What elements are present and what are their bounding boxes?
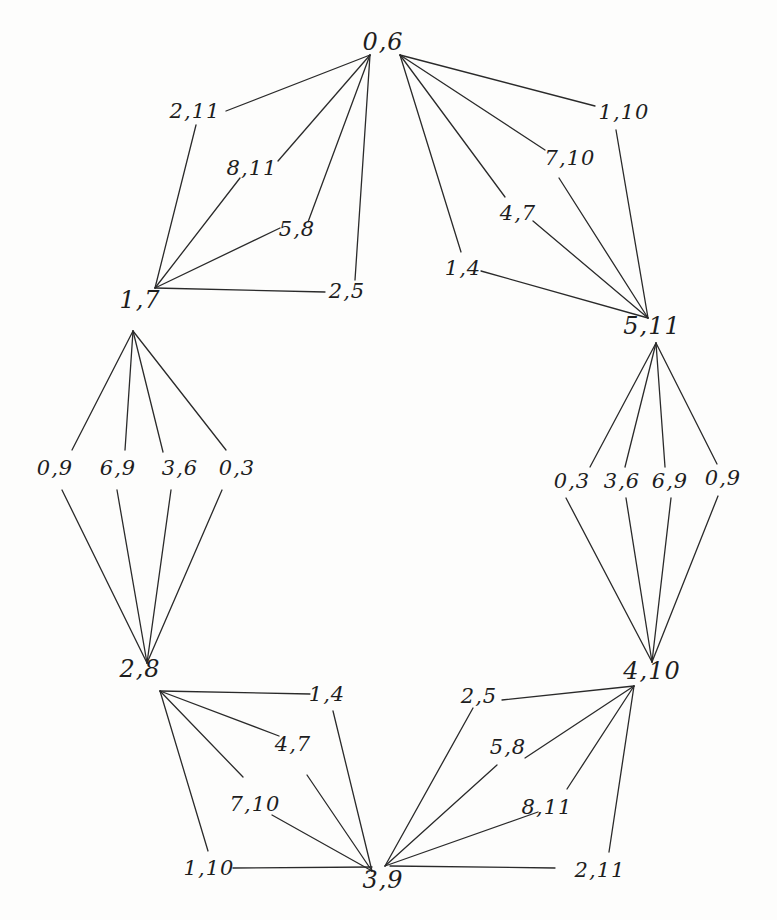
graph-diagram: 0,65,114,103,92,81,72,118,115,82,51,107,… xyxy=(0,0,777,920)
graph-edge xyxy=(233,867,372,868)
graph-edge xyxy=(155,125,196,288)
graph-edge xyxy=(272,815,372,871)
hub-node-label: 4,10 xyxy=(623,657,680,685)
graph-edge xyxy=(502,686,634,700)
intermediate-node-label: 5,8 xyxy=(279,217,315,241)
graph-edge xyxy=(117,490,147,663)
intermediate-node-label: 3,6 xyxy=(162,456,198,480)
intermediate-node-label: 8,11 xyxy=(522,795,573,819)
graph-edge xyxy=(226,55,370,111)
graph-edge xyxy=(590,343,656,467)
graph-edge xyxy=(400,55,461,252)
graph-edge xyxy=(133,331,226,450)
graph-edge xyxy=(400,55,545,150)
intermediate-node-label: 1,10 xyxy=(599,100,650,124)
graph-edge xyxy=(147,490,171,663)
intermediate-node-label: 6,9 xyxy=(100,456,136,480)
graph-edge xyxy=(62,490,147,663)
intermediate-node-label: 4,7 xyxy=(500,201,536,225)
graph-edge xyxy=(155,288,325,292)
intermediate-node-label: 0,3 xyxy=(554,469,590,493)
graph-edge xyxy=(390,866,555,868)
intermediate-node-label: 8,11 xyxy=(227,156,278,180)
graph-edge xyxy=(333,711,372,871)
graph-edge xyxy=(72,331,133,450)
intermediate-node-label: 0,3 xyxy=(219,456,255,480)
graph-edge xyxy=(155,178,240,288)
graph-edge xyxy=(385,812,538,866)
graph-edge xyxy=(625,343,656,467)
graph-edge xyxy=(533,221,648,318)
graph-edge xyxy=(155,228,280,288)
intermediate-node-label: 1,4 xyxy=(309,682,345,706)
intermediate-node-label: 2,5 xyxy=(461,684,497,708)
hub-node-label: 5,11 xyxy=(623,312,680,340)
intermediate-node-label: 0,9 xyxy=(37,456,73,480)
hub-node-label: 2,8 xyxy=(119,655,160,683)
graph-edge xyxy=(656,343,665,467)
intermediate-node-label: 7,10 xyxy=(230,792,281,816)
graph-edge xyxy=(385,765,497,866)
intermediate-node-label: 7,10 xyxy=(545,146,596,170)
hub-node-label: 3,9 xyxy=(362,866,403,894)
intermediate-node-label: 2,11 xyxy=(575,858,626,882)
intermediate-node-label: 3,6 xyxy=(604,469,640,493)
graph-edge xyxy=(160,691,279,736)
graph-edge xyxy=(567,686,634,789)
graph-edge xyxy=(525,686,634,758)
graph-edge xyxy=(160,691,310,694)
hub-node-label: 0,6 xyxy=(362,28,403,56)
intermediate-node-label: 6,9 xyxy=(652,469,688,493)
intermediate-node-label: 2,5 xyxy=(329,279,365,303)
graph-edge xyxy=(125,331,133,450)
graph-edge xyxy=(400,55,595,106)
intermediate-node-label: 1,4 xyxy=(445,256,481,280)
graph-edge xyxy=(656,343,717,464)
graph-edge xyxy=(278,55,370,161)
intermediate-node-label: 5,8 xyxy=(490,735,526,759)
graph-edge xyxy=(385,708,473,866)
graph-edge xyxy=(616,130,648,318)
graph-edge xyxy=(147,490,222,663)
graph-edge xyxy=(307,775,372,871)
intermediate-node-label: 0,9 xyxy=(705,466,741,490)
intermediate-node-label: 4,7 xyxy=(275,732,311,756)
graph-edge xyxy=(609,686,634,852)
intermediate-node-label: 1,10 xyxy=(184,856,235,880)
graph-edge xyxy=(400,55,505,197)
intermediate-node-label: 2,11 xyxy=(170,99,221,123)
hub-node-label: 1,7 xyxy=(119,286,160,314)
